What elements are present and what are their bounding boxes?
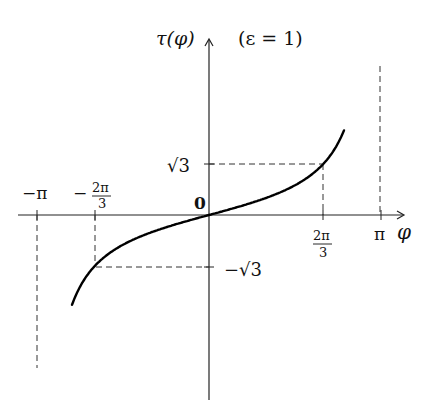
y-tick-label-neg-sqrt3: −√3 <box>224 259 262 280</box>
tau-curve <box>72 130 344 304</box>
x-tick-label-neg-2pi3-den: 3 <box>98 196 106 211</box>
x-tick-label-pi: π <box>374 224 385 244</box>
y-tick-label-sqrt3: √3 <box>167 155 190 176</box>
origin-label: 0 <box>194 193 206 213</box>
x-tick-label-neg-2pi3-num: 2π <box>92 180 109 195</box>
x-tick-label-2pi3-den: 3 <box>319 245 327 260</box>
epsilon-annotation: (ε = 1) <box>238 27 303 49</box>
x-tick-label-2pi3-num: 2π <box>313 228 330 243</box>
x-tick-label-neg-2pi3-sign: − <box>73 183 87 203</box>
x-tick-label-neg-pi: −π <box>22 183 47 203</box>
x-axis-label: φ <box>397 220 411 244</box>
plot-canvas: τ(φ) (ε = 1) φ 0 −π − 2π 3 2π 3 π √3 −√3 <box>0 0 428 408</box>
y-axis-label: τ(φ) <box>156 27 195 49</box>
